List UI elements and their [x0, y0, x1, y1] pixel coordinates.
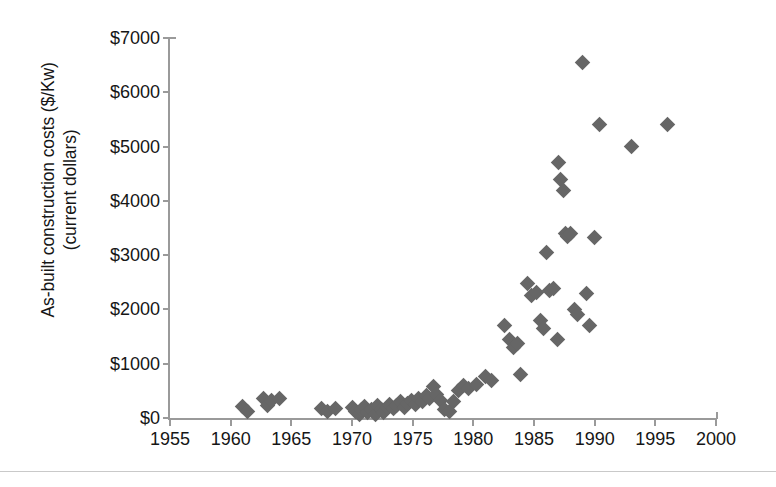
x-axis-tick — [230, 418, 232, 426]
scatter-point — [623, 139, 639, 155]
scatter-point — [538, 245, 554, 261]
y-axis-tick — [163, 146, 170, 148]
x-axis-tick-label: 1995 — [635, 429, 675, 450]
y-axis-tick-label: $5000 — [110, 136, 160, 157]
x-axis-tick — [412, 418, 414, 426]
x-axis-tick-label: 1960 — [211, 429, 251, 450]
x-axis-tick — [290, 418, 292, 426]
y-axis-title: As-built construction costs ($/Kw) (curr… — [38, 0, 82, 400]
y-axis-tick — [163, 200, 170, 202]
chart-figure: As-built construction costs ($/Kw) (curr… — [0, 0, 776, 487]
scatter-points — [170, 38, 716, 418]
y-axis-title-line-2: (current dollars) — [60, 0, 82, 400]
x-axis-tick-label: 2000 — [696, 429, 736, 450]
scatter-point — [578, 285, 594, 301]
x-axis-tick — [594, 418, 596, 426]
scatter-point — [549, 332, 565, 348]
y-axis-tick-label: $2000 — [110, 299, 160, 320]
y-axis-tick — [163, 363, 170, 365]
y-axis-tick — [163, 254, 170, 256]
y-axis-tick-label: $3000 — [110, 245, 160, 266]
x-axis-tick-label: 1970 — [332, 429, 372, 450]
x-axis-tick — [654, 418, 656, 426]
x-axis-tick — [715, 418, 717, 426]
y-axis-tick — [163, 91, 170, 93]
y-axis-tick — [163, 37, 170, 39]
y-axis-tick-label: $7000 — [110, 28, 160, 49]
y-axis-tick-label: $6000 — [110, 82, 160, 103]
x-axis-tick — [169, 418, 171, 426]
y-axis-tick-label: $0 — [140, 408, 160, 429]
y-axis-title-line-1: As-built construction costs ($/Kw) — [38, 0, 60, 400]
x-axis-tick-label: 1980 — [453, 429, 493, 450]
x-axis-tick-label: 1975 — [393, 429, 433, 450]
page-rule — [0, 471, 776, 472]
x-axis-tick — [472, 418, 474, 426]
x-axis-tick-label: 1985 — [514, 429, 554, 450]
scatter-point — [575, 55, 591, 71]
plot-area: $0$1000$2000$3000$4000$5000$6000$7000 19… — [168, 38, 716, 420]
scatter-point — [550, 155, 566, 171]
scatter-point — [497, 318, 513, 334]
x-axis-tick-label: 1965 — [271, 429, 311, 450]
y-axis-tick-label: $4000 — [110, 190, 160, 211]
y-axis-tick-label: $1000 — [110, 353, 160, 374]
x-axis-tick-label: 1990 — [575, 429, 615, 450]
scatter-point — [513, 367, 529, 383]
scatter-point — [587, 229, 603, 245]
scatter-point — [660, 117, 676, 133]
y-axis-tick — [163, 308, 170, 310]
x-axis-tick — [351, 418, 353, 426]
x-axis-tick — [533, 418, 535, 426]
scatter-point — [582, 318, 598, 334]
scatter-point — [592, 117, 608, 133]
x-axis-tick-label: 1955 — [150, 429, 190, 450]
